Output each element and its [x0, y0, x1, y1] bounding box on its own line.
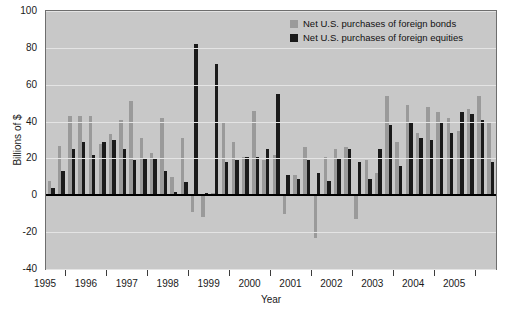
x-axis-tick: [475, 270, 476, 276]
x-axis-label: 1995: [34, 278, 56, 289]
bar-equities: [235, 160, 238, 195]
bar-equities: [470, 114, 473, 195]
bar-equities: [307, 160, 310, 195]
legend-label: Net U.S. purchases of foreign bonds: [303, 18, 456, 29]
y-axis-label: -40: [23, 263, 37, 274]
bar-equities: [348, 149, 351, 195]
x-axis-label: 1998: [157, 278, 179, 289]
bar-equities: [133, 160, 136, 195]
gridline: [46, 85, 496, 86]
x-axis-tick: [229, 270, 230, 276]
y-axis-label: 100: [20, 5, 37, 16]
x-axis-label: 1999: [198, 278, 220, 289]
x-axis-label: 2003: [361, 278, 383, 289]
x-axis-tick: [188, 270, 189, 276]
bar-equities: [460, 112, 463, 195]
plot-area: [46, 11, 496, 269]
zero-line: [46, 194, 496, 196]
x-axis-tick: [65, 270, 66, 276]
plot-panel: [45, 10, 497, 270]
bar-equities: [266, 149, 269, 195]
x-axis-tick: [352, 270, 353, 276]
y-axis-label: 40: [26, 115, 37, 126]
bar-bonds: [354, 195, 357, 219]
bar-equities: [225, 162, 228, 195]
x-axis-tick: [311, 270, 312, 276]
bar-equities: [256, 157, 259, 196]
gridline: [46, 232, 496, 233]
bar-bonds: [201, 195, 204, 217]
x-axis-label: 2004: [402, 278, 424, 289]
bar-equities: [317, 173, 320, 195]
bar-equities: [72, 149, 75, 195]
bar-equities: [61, 171, 64, 195]
legend-item: Net U.S. purchases of foreign equities: [290, 32, 463, 43]
y-axis-label: 20: [26, 152, 37, 163]
x-axis-tick: [106, 270, 107, 276]
bar-equities: [450, 133, 453, 196]
legend-swatch-equities-icon: [290, 34, 298, 42]
y-axis: Billions of $ 100806040200-20-40: [0, 10, 45, 270]
bar-equities: [378, 149, 381, 195]
bar-equities: [143, 158, 146, 195]
bar-equities: [297, 179, 300, 196]
bar-equities: [245, 157, 248, 196]
gridline: [46, 158, 496, 159]
y-axis-label: 80: [26, 41, 37, 52]
bar-equities: [164, 171, 167, 195]
x-axis-label: 2000: [238, 278, 260, 289]
x-axis-label: 1996: [75, 278, 97, 289]
bar-equities: [102, 142, 105, 195]
bar-equities: [491, 162, 494, 195]
bar-equities: [337, 158, 340, 195]
x-axis-title: Year: [45, 294, 497, 305]
chart-legend: Net U.S. purchases of foreign bondsNet U…: [290, 18, 463, 46]
bar-equities: [92, 155, 95, 196]
bar-equities: [194, 44, 197, 195]
bar-equities: [123, 149, 126, 195]
bar-equities: [419, 138, 422, 195]
x-axis-tick: [434, 270, 435, 276]
bar-equities: [358, 162, 361, 195]
legend-swatch-bonds-icon: [290, 20, 298, 28]
x-axis-label: 1997: [116, 278, 138, 289]
x-axis-tick: [147, 270, 148, 276]
gridline: [46, 11, 496, 12]
x-axis-tick: [393, 270, 394, 276]
bar-equities: [82, 142, 85, 195]
y-axis-label: -20: [23, 226, 37, 237]
x-axis: Year 19951996199719981999200020012002200…: [45, 270, 497, 316]
y-axis-label: 0: [31, 189, 37, 200]
bar-equities: [430, 140, 433, 195]
bar-equities: [286, 175, 289, 195]
legend-label: Net U.S. purchases of foreign equities: [303, 32, 463, 43]
y-axis-title: Billions of $: [12, 85, 23, 195]
legend-item: Net U.S. purchases of foreign bonds: [290, 18, 463, 29]
bar-equities: [399, 166, 402, 195]
bar-equities: [389, 125, 392, 195]
y-axis-label: 60: [26, 78, 37, 89]
x-axis-label: 2001: [279, 278, 301, 289]
x-axis-label: 2005: [443, 278, 465, 289]
bar-bonds: [283, 195, 286, 213]
bar-equities: [153, 158, 156, 195]
bar-equities: [276, 94, 279, 195]
gridline: [46, 122, 496, 123]
bar-equities: [327, 181, 330, 196]
chart-figure: Billions of $ 100806040200-20-40 Year 19…: [0, 0, 507, 316]
bar-equities: [368, 179, 371, 196]
x-axis-tick: [270, 270, 271, 276]
bar-bonds: [191, 195, 194, 212]
gridline: [46, 48, 496, 49]
bar-equities: [112, 140, 115, 195]
x-axis-label: 2002: [320, 278, 342, 289]
